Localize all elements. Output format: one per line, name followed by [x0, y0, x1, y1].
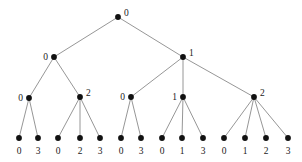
tree-node — [26, 95, 32, 101]
tree-leaf-label: 1 — [243, 146, 248, 156]
tree-edge — [183, 97, 203, 138]
tree-leaf-label: 0 — [119, 146, 124, 156]
tree-node — [180, 54, 186, 60]
tree-node — [128, 94, 134, 100]
tree-edge — [118, 17, 183, 57]
tree-node — [115, 14, 121, 20]
tree-diagram-canvas: 0010201203023030130123 — [0, 0, 302, 162]
tree-edge — [183, 57, 254, 97]
tree-node-label: 1 — [172, 92, 177, 102]
tree-node-label: 2 — [86, 88, 91, 98]
tree-leaf-node — [221, 135, 227, 141]
tree-nodes-group — [16, 14, 291, 141]
tree-edge — [80, 97, 100, 138]
tree-edge — [121, 97, 131, 138]
tree-leaf-node — [77, 135, 83, 141]
tree-leaf-node — [159, 135, 165, 141]
tree-node — [77, 94, 83, 100]
tree-leaf-node — [263, 135, 269, 141]
tree-node-label: 0 — [18, 93, 23, 103]
tree-edge — [29, 98, 38, 138]
tree-leaf-node — [285, 135, 291, 141]
tree-node — [251, 94, 257, 100]
tree-edge — [131, 97, 141, 138]
tree-leaf-label: 3 — [139, 146, 144, 156]
tree-edges-group — [19, 17, 288, 138]
tree-leaf-label: 1 — [180, 146, 185, 156]
tree-node-label: 2 — [260, 88, 265, 98]
tree-node-label: 0 — [124, 8, 129, 18]
tree-node-label: 0 — [120, 92, 125, 102]
tree-edge — [54, 17, 118, 57]
tree-node — [51, 54, 57, 60]
tree-leaf-node — [55, 135, 61, 141]
tree-leaf-label: 0 — [222, 146, 227, 156]
tree-leaf-label: 2 — [264, 146, 269, 156]
tree-leaf-label: 2 — [78, 146, 83, 156]
tree-leaf-node — [242, 135, 248, 141]
tree-node-label: 0 — [43, 52, 48, 62]
tree-leaf-node — [200, 135, 206, 141]
tree-edge — [54, 57, 80, 97]
tree-leaf-label: 3 — [286, 146, 291, 156]
tree-leaf-label: 3 — [36, 146, 41, 156]
tree-edge — [182, 97, 183, 138]
tree-leaf-node — [138, 135, 144, 141]
tree-edge — [162, 97, 183, 138]
tree-leaf-node — [118, 135, 124, 141]
tree-labels-group: 0010201203023030130123 — [17, 8, 291, 156]
tree-edge — [254, 97, 288, 138]
tree-edge — [254, 97, 266, 138]
tree-leaf-node — [179, 135, 185, 141]
tree-leaf-node — [97, 135, 103, 141]
tree-leaf-label: 3 — [201, 146, 206, 156]
tree-node-label: 1 — [189, 48, 194, 58]
tree-edge — [58, 97, 80, 138]
tree-leaf-label: 3 — [98, 146, 103, 156]
tree-leaf-node — [16, 135, 22, 141]
tree-diagram-figure: 0010201203023030130123 — [0, 0, 302, 162]
tree-leaf-node — [35, 135, 41, 141]
tree-edge — [19, 98, 29, 138]
tree-leaf-label: 0 — [17, 146, 22, 156]
tree-leaf-label: 0 — [56, 146, 61, 156]
tree-leaf-label: 0 — [160, 146, 165, 156]
tree-node — [180, 94, 186, 100]
tree-edge — [29, 57, 54, 98]
